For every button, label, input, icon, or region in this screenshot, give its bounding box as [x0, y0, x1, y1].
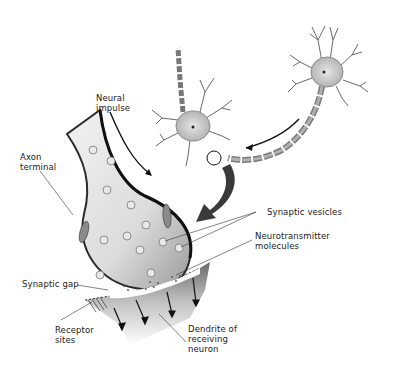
label-dendrite-of-receiving-neuron: Dendrite of receiving neuron [188, 324, 237, 354]
myelinated-axon [228, 86, 322, 160]
label-synaptic-vesicles: Synaptic vesicles [267, 207, 342, 217]
label-synaptic-gap: Synaptic gap [22, 279, 79, 289]
synapse-diagram: Neural impulse Axon terminal Synaptic ve… [0, 0, 393, 369]
label-neural-impulse: Neural impulse [96, 93, 130, 113]
diagram-artwork [0, 0, 393, 369]
zoom-arrow [196, 164, 235, 222]
label-receptor-sites: Receptor sites [55, 325, 94, 345]
synapse-zoom-circle [207, 151, 221, 165]
label-axon-terminal: Axon terminal [20, 152, 56, 172]
sending-neuron [288, 26, 368, 106]
label-neurotransmitter-molecules: Neurotransmitter molecules [255, 231, 330, 251]
axon-terminal [67, 110, 191, 290]
receiving-neuron [152, 48, 232, 166]
